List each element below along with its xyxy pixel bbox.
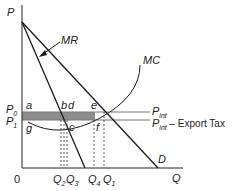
point-d: d [68,99,75,111]
arrowhead-icon [39,50,47,57]
origin-label: 0 [14,173,20,185]
q3-label: Q3 [66,173,79,187]
demand-curve [22,22,158,168]
shaded-tax-area [22,112,95,120]
mr-label: MR [61,34,78,46]
point-e: e [91,99,97,111]
q4-label: Q4 [88,173,101,187]
p1-label: P1 [6,115,17,129]
point-f: f [96,121,100,133]
point-b: b [61,99,67,111]
q1-label: Q1 [103,173,116,187]
y-axis-label: P [7,6,15,18]
p-int-tax-label: Pint – Export Tax [152,117,225,131]
point-g: g [26,122,33,134]
point-c: c [69,121,75,133]
mc-label: MC [143,54,160,66]
q2-label: Q2 [53,173,66,187]
demand-label: D [158,153,166,165]
point-a: a [26,99,32,111]
x-axis-label: Q [172,172,181,184]
export-tax-diagram: P Q 0 MR MC D Pint Pint – Export Tax P0 … [0,0,234,191]
